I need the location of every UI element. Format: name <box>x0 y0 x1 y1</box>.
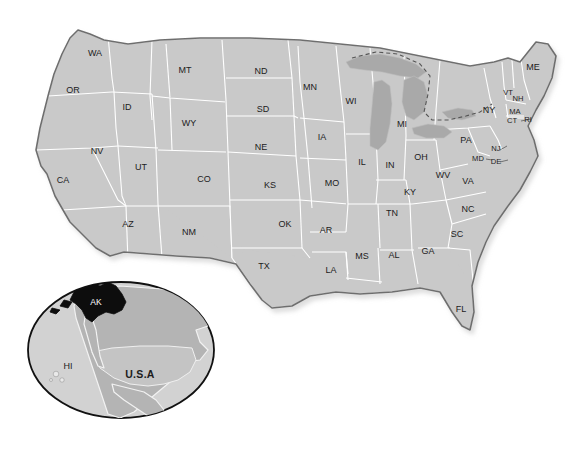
inset-map-group: AK HI U.S.A <box>28 282 216 418</box>
map-svg: WA OR CA NV ID MT WY UT AZ NM CO ND SD N… <box>0 0 584 459</box>
inset-hawaii-island-1 <box>53 371 59 377</box>
inset-label-usa: U.S.A <box>125 368 155 380</box>
inset-label-hi: HI <box>64 361 73 371</box>
inset-hawaii-island-3 <box>50 379 53 382</box>
inset-label-ak: AK <box>90 297 102 307</box>
inset-hawaii-island-2 <box>60 378 64 382</box>
usa-map-figure: WA OR CA NV ID MT WY UT AZ NM CO ND SD N… <box>0 0 584 459</box>
